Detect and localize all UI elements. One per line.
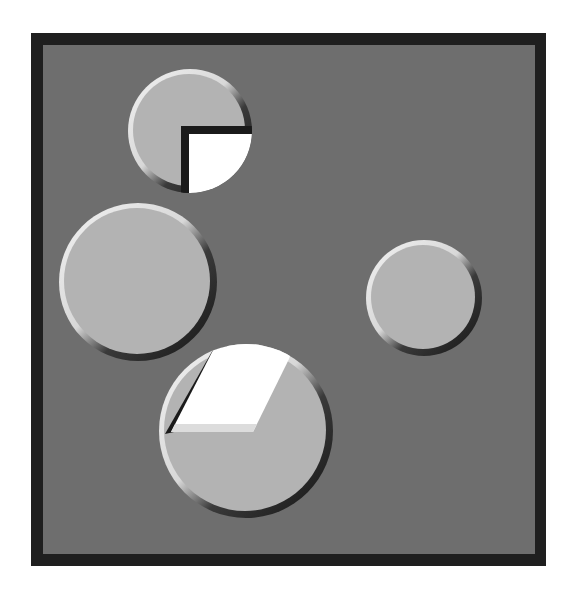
circle-face: [64, 208, 210, 354]
puzzle-board: [0, 0, 575, 595]
right-circle[interactable]: [366, 240, 482, 356]
left-circle[interactable]: [59, 203, 217, 361]
wedge-bevel: [171, 424, 257, 432]
puzzle-canvas: [0, 0, 575, 595]
circle-face: [371, 245, 475, 349]
